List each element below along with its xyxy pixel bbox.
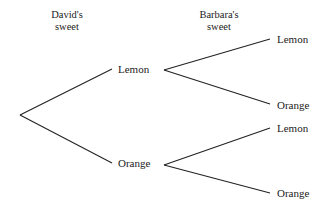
branch-root-orange <box>20 115 112 163</box>
branch-orange-orange <box>164 165 270 193</box>
branch-root-lemon <box>20 69 112 115</box>
node-orange-lemon: Lemon <box>277 122 308 134</box>
branch-lemon-lemon <box>164 39 270 70</box>
node-orange-orange: Orange <box>277 187 309 199</box>
branch-lemon-orange <box>164 70 270 104</box>
header-barbara-line2: sweet <box>179 21 259 33</box>
header-david-line1: David's <box>27 9 107 21</box>
node-lemon-orange: Orange <box>277 99 309 111</box>
header-david: David's sweet <box>27 9 107 33</box>
header-barbara: Barbara's sweet <box>179 9 259 33</box>
node-david-orange: Orange <box>118 157 150 169</box>
header-barbara-line1: Barbara's <box>179 9 259 21</box>
header-david-line2: sweet <box>27 21 107 33</box>
branch-orange-lemon <box>164 128 270 165</box>
node-lemon-lemon: Lemon <box>277 33 308 45</box>
node-david-lemon: Lemon <box>118 63 149 75</box>
